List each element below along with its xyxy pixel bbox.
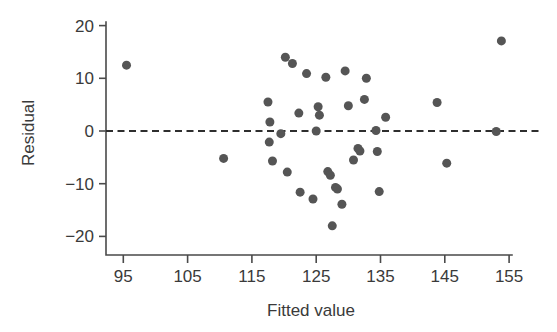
data-point [344,101,353,110]
data-point [360,95,369,104]
data-point [341,66,350,75]
data-point [268,157,277,166]
data-point [288,59,297,68]
data-point [381,113,390,122]
data-point [442,159,451,168]
x-axis-tick-labels: 95105115125135145155 [114,267,523,286]
x-tick-label: 125 [302,267,330,286]
y-tick-label: −20 [65,227,94,246]
x-axis-tickmarks [123,255,509,263]
data-point [312,127,321,136]
x-axis-title: Fitted value [267,301,355,320]
data-point [263,98,272,107]
y-tick-label: 10 [75,69,94,88]
x-tick-label: 115 [238,267,265,286]
data-point [492,127,501,136]
axis-spines [106,22,512,255]
data-point [314,102,323,111]
data-point [219,154,228,163]
data-point [265,138,274,147]
data-point [333,184,342,193]
scatter-plot-canvas: 20100−10−20 95105115125135145155 Fitted … [0,0,557,332]
data-point [302,69,311,78]
data-point [283,168,292,177]
y-axis-tick-labels: 20100−10−20 [65,17,94,247]
x-tick-label: 135 [366,267,394,286]
data-point [433,98,442,107]
data-point [265,118,274,127]
y-tick-label: 20 [75,17,94,36]
data-point [281,53,290,62]
data-point [308,194,317,203]
data-point [328,221,337,230]
data-point [371,126,380,135]
x-tick-label: 105 [173,267,201,286]
y-tick-label: −10 [65,175,94,194]
data-point [321,73,330,82]
data-point [375,187,384,196]
y-tick-label: 0 [85,122,94,141]
y-axis-title: Residual [19,100,38,166]
data-point [497,36,506,45]
x-tick-label: 145 [431,267,459,286]
data-point [373,147,382,156]
data-point [296,188,305,197]
data-point [122,61,131,70]
data-point [362,74,371,83]
data-point [294,109,303,118]
y-axis-tickmarks [99,26,106,237]
x-tick-label: 155 [495,267,523,286]
data-point [326,171,335,180]
data-point [349,155,358,164]
data-point [337,200,346,209]
data-point [315,111,324,120]
data-point [276,129,285,138]
data-points-group [122,36,506,230]
x-tick-label: 95 [114,267,133,286]
residual-scatter-figure: 20100−10−20 95105115125135145155 Fitted … [0,0,557,332]
data-point [355,147,364,156]
